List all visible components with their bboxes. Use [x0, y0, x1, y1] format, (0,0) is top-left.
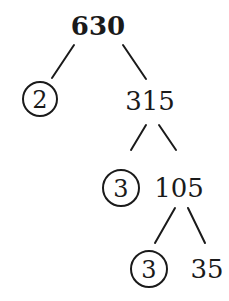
node-315: 315	[125, 86, 175, 116]
node-3b-label: 3	[141, 256, 156, 284]
node-3a-label: 3	[113, 175, 128, 203]
node-2-label: 2	[32, 86, 47, 114]
edge-105-35	[188, 208, 205, 243]
node-2-circled: 2	[23, 82, 57, 116]
edge-630-2	[52, 45, 74, 78]
factor-tree-diagram: 630 2 315 3 105 3 35	[0, 0, 229, 301]
node-35: 35	[190, 254, 223, 284]
node-3-circled-b: 3	[131, 251, 167, 287]
node-3-circled-a: 3	[103, 170, 139, 206]
edge-105-3	[155, 208, 175, 243]
edge-630-315	[123, 45, 146, 79]
node-105: 105	[154, 173, 204, 203]
tree-edges	[52, 45, 205, 243]
edge-315-105	[159, 125, 176, 150]
edge-315-3	[131, 125, 146, 150]
node-630: 630	[71, 11, 125, 41]
